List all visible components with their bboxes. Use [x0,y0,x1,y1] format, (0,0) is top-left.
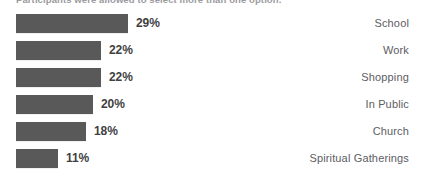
bar-rows: 29% School 22% Work 22% Shopping 20% In … [0,12,423,174]
table-row: 18% Church [0,120,423,147]
bar [16,95,93,114]
bar [16,149,58,168]
bar [16,122,86,141]
bar-value-label: 22% [109,42,133,59]
bar [16,14,128,33]
category-label: Work [383,42,409,59]
category-label: In Public [365,96,409,113]
bar-value-label: 29% [136,15,160,32]
bar [16,41,101,60]
chart-subtitle: Participants were allowed to select more… [16,0,406,5]
table-row: 29% School [0,12,423,39]
bar-value-label: 11% [66,150,89,167]
category-label: Church [373,123,409,140]
bar-track [16,95,93,114]
bar-track [16,149,58,168]
bar-track [16,68,101,87]
bar [16,68,101,87]
bar-value-label: 18% [94,123,118,140]
category-label: Shopping [361,69,409,86]
table-row: 11% Spiritual Gatherings [0,147,423,174]
category-label: Spiritual Gatherings [309,150,409,167]
bar-value-label: 22% [109,69,133,86]
survey-bar-chart: Participants were allowed to select more… [0,0,423,178]
bar-track [16,122,86,141]
bar-track [16,14,128,33]
bar-value-label: 20% [101,96,125,113]
table-row: 22% Shopping [0,66,423,93]
bar-track [16,41,101,60]
table-row: 20% In Public [0,93,423,120]
table-row: 22% Work [0,39,423,66]
category-label: School [374,15,409,32]
